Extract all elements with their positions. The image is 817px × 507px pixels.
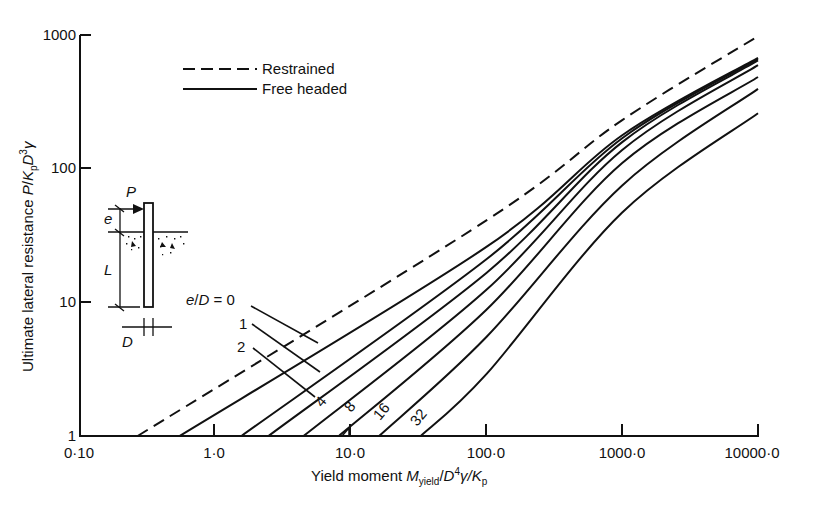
series-line-e-d-1 (241, 59, 758, 436)
inset-label-P: P (126, 183, 136, 200)
legend: Restrained Free headed (183, 60, 347, 97)
curve-label-ed1: 1 (239, 315, 247, 332)
y-tick-label-1000: 1000 (43, 26, 76, 43)
x-tick-labels: 0·10 1·0 10·0 100·0 1000·0 10000·0 (64, 444, 780, 461)
legend-free-label: Free headed (262, 80, 347, 97)
lateral-resistance-chart: 1000 100 10 1 0·10 1·0 10·0 100·0 1000·0… (0, 0, 817, 507)
x-tick-label-10: 10·0 (335, 444, 365, 461)
series-line-e-d-4 (304, 65, 759, 436)
axes (79, 35, 759, 436)
x-tick-label-0.1: 0·10 (64, 444, 94, 461)
series-line-restrained (138, 36, 758, 436)
curve-labels: e/D = 0 1 2 4 8 16 32 (186, 291, 430, 429)
series-line-e-d-16 (379, 89, 758, 436)
series-group (138, 36, 758, 436)
curve-label-ed16: 16 (369, 399, 393, 423)
y-tick-labels: 1000 100 10 1 (43, 26, 76, 444)
curve-label-ed4: 4 (311, 393, 329, 410)
x-axis-M: M (406, 467, 419, 484)
y-axis-D: D (19, 155, 36, 166)
x-tick-label-100: 100·0 (467, 444, 505, 461)
load-arrow-head-icon (133, 204, 144, 214)
leader-ed2 (253, 348, 315, 397)
y-tick-label-100: 100 (51, 159, 76, 176)
y-axis-gamma: γ (19, 140, 36, 149)
x-tick-label-1000: 1000·0 (599, 444, 646, 461)
x-axis-M-sub: yield (419, 476, 440, 487)
curve-label-ed0: e/D = 0 (186, 291, 235, 308)
curve-label-ed2: 2 (237, 338, 245, 355)
y-axis-title: Ultimate lateral resistance P/KpD3γ (18, 140, 39, 372)
x-axis-K-sub: p (482, 476, 488, 487)
series-line-e-d-2 (268, 61, 758, 437)
leader-ed0 (251, 306, 318, 343)
inset-label-L: L (104, 261, 112, 278)
y-axis-title-text: Ultimate lateral resistance (19, 195, 36, 372)
inset-label-e: e (104, 210, 112, 227)
legend-restrained-label: Restrained (262, 60, 335, 77)
curve-label-leaders (251, 306, 320, 397)
pile-inset-diagram (108, 203, 188, 336)
x-axis-D: D (444, 467, 455, 484)
curve-label-ed0-D: D (199, 291, 210, 308)
x-tick-label-1: 1·0 (203, 444, 225, 461)
y-tick-label-1: 1 (68, 427, 76, 444)
x-axis-title-text: Yield moment (311, 467, 406, 484)
pile-shaft (144, 203, 153, 307)
curve-label-ed0-eq: = 0 (209, 291, 234, 308)
x-axis-title: Yield moment Myield/D4γ/Kp (311, 466, 488, 487)
y-tick-label-10: 10 (59, 293, 76, 310)
curve-label-ed0-e: e (186, 291, 194, 308)
inset-label-D: D (122, 333, 133, 350)
x-tick-label-10000: 10000·0 (724, 444, 779, 461)
y-axis-P: P (19, 185, 36, 195)
